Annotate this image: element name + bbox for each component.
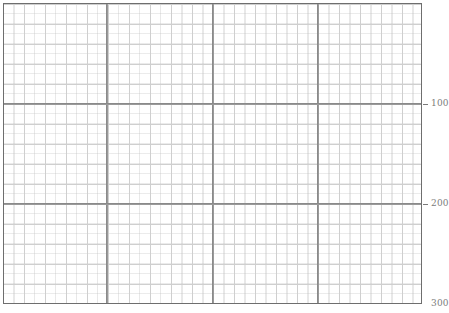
y-axis-tick-label: 200 — [431, 197, 449, 209]
major-gridline-vertical — [106, 3, 107, 304]
plot-area — [3, 3, 422, 304]
y-axis-tick-label: 300 — [431, 297, 449, 309]
major-gridline-horizontal — [3, 103, 422, 104]
y-axis-tick-label: 100 — [431, 97, 449, 109]
chart-root: 100 200 300 — [0, 0, 449, 313]
tick-mark-icon — [423, 304, 428, 305]
major-gridline-vertical — [212, 3, 213, 304]
tick-mark-icon — [423, 104, 428, 105]
tick-mark-icon — [423, 204, 428, 205]
major-gridline-horizontal — [3, 203, 422, 204]
major-gridline-vertical — [317, 3, 318, 304]
